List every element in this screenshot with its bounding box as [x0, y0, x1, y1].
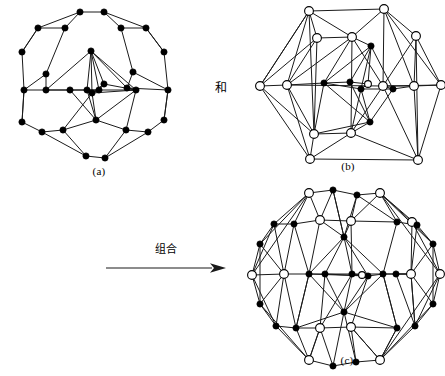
graph-edge: [325, 237, 344, 274]
graph-node-open-small: [359, 272, 366, 279]
graph-node-filled: [257, 301, 263, 307]
graph-edge: [260, 86, 310, 159]
graph-node-filled: [130, 69, 136, 75]
graph-edge: [333, 190, 357, 195]
graph-edge: [294, 224, 309, 274]
graph-panel-a: (a): [8, 2, 190, 184]
graph-node-open: [347, 217, 356, 226]
graph-edge: [22, 90, 24, 122]
graph-node-filled: [161, 49, 167, 55]
graph-edge: [91, 51, 104, 84]
graph-node-open: [412, 32, 421, 41]
graph-node-filled: [60, 127, 66, 133]
graph-edge: [350, 46, 371, 82]
graph-a-edges: [22, 12, 168, 158]
graph-edge: [63, 120, 96, 130]
graph-edge: [384, 9, 441, 85]
graph-node-filled: [89, 90, 95, 96]
graph-edge: [104, 12, 121, 28]
graph-node-filled: [394, 219, 400, 225]
graph-edge: [121, 28, 133, 72]
graph-node-open: [310, 130, 319, 139]
graph-node-filled: [145, 129, 151, 135]
graph-node-open: [305, 189, 314, 198]
graph-node-filled: [257, 241, 263, 247]
graph-node-open: [305, 7, 314, 16]
graph-node-filled: [124, 85, 130, 91]
graph-edge: [380, 274, 440, 360]
graph-edge: [351, 221, 397, 222]
graph-node-open: [280, 270, 289, 279]
graph-node-filled: [35, 25, 41, 31]
graph-c-svg: [250, 182, 444, 376]
graph-edge: [324, 82, 350, 83]
graph-edge: [415, 274, 440, 326]
graph-edge: [294, 193, 309, 224]
graph-node-filled: [330, 187, 336, 193]
graph-edge: [105, 130, 126, 158]
graph-node-filled: [102, 155, 108, 161]
graph-edge: [91, 51, 127, 88]
graph-edge: [284, 274, 296, 328]
graph-edge: [351, 327, 397, 328]
graph-node-open: [248, 271, 257, 280]
graph-node-filled: [322, 271, 328, 277]
graph-edge: [104, 12, 146, 28]
graph-edge: [133, 72, 168, 90]
graph-edge: [284, 224, 294, 274]
graph-edge: [383, 274, 397, 328]
graph-node-open: [347, 323, 356, 332]
graph-node-filled: [39, 129, 45, 135]
graph-node-filled: [393, 271, 399, 277]
graph-edge: [24, 74, 46, 90]
graph-edge: [320, 274, 352, 328]
graph-node-open: [256, 82, 265, 91]
conjunction-label: 和: [198, 82, 244, 94]
graph-node-filled: [273, 323, 279, 329]
graph-node-open: [437, 81, 445, 90]
graph-edge: [22, 52, 24, 90]
graph-node-filled: [83, 153, 89, 159]
graph-node-filled: [101, 81, 107, 87]
graph-node-filled: [293, 325, 299, 331]
graph-edge: [418, 85, 441, 160]
graph-edge: [22, 28, 38, 52]
graph-node-open-small: [365, 81, 372, 88]
graph-edge: [252, 224, 274, 275]
graph-node-filled: [67, 87, 73, 93]
graph-node-open: [379, 82, 388, 91]
graph-edge: [370, 89, 393, 122]
caption-a: (a): [8, 165, 190, 177]
graph-node-open: [410, 82, 419, 91]
graph-edge: [383, 222, 397, 274]
graph-edge: [260, 304, 309, 360]
graph-node-filled: [341, 234, 347, 240]
graph-edge: [383, 86, 418, 160]
graph-node-filled: [430, 241, 436, 247]
graph-node-open: [347, 129, 356, 138]
graph-edge: [417, 225, 433, 244]
graph-edge: [380, 193, 440, 274]
graph-edge: [63, 130, 86, 156]
graph-node-filled: [354, 192, 360, 198]
graph-node-filled: [133, 87, 139, 93]
graph-edge: [87, 51, 91, 90]
graph-panel-c: (c): [250, 182, 444, 376]
graph-node-filled: [21, 87, 27, 93]
graph-node-filled: [77, 9, 83, 15]
graph-node-filled: [96, 87, 102, 93]
graph-edge: [314, 122, 370, 134]
graph-edge: [146, 28, 164, 52]
graph-edge: [287, 85, 310, 159]
graph-node-filled: [412, 323, 418, 329]
graph-edge: [105, 132, 148, 158]
graph-node-filled: [380, 271, 386, 277]
graph-panel-b: (b): [252, 0, 444, 182]
graph-edge: [260, 193, 309, 244]
graph-node-filled: [394, 325, 400, 331]
caption-c: (c): [250, 354, 444, 366]
graph-node-open: [436, 270, 445, 279]
graph-node-open: [348, 33, 357, 42]
graph-edge: [351, 276, 368, 327]
graph-node-filled: [347, 79, 353, 85]
